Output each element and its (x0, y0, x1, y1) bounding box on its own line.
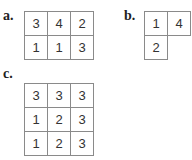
grid-cell: 1 (25, 36, 48, 60)
grid-cell: 1 (25, 132, 48, 156)
panel-b-label: b. (124, 8, 135, 24)
panel-b-grid: 1 4 2 (144, 11, 191, 60)
grid-cell: 3 (71, 84, 94, 108)
grid-cell: 3 (71, 132, 94, 156)
grid-cell: 4 (168, 12, 191, 36)
grid-cell: 2 (48, 132, 71, 156)
grid-cell: 3 (48, 84, 71, 108)
grid-cell: 1 (48, 36, 71, 60)
grid-cell: 2 (145, 36, 168, 60)
grid-cell: 3 (71, 108, 94, 132)
grid-cell: 2 (48, 108, 71, 132)
panel-c-label: c. (3, 66, 13, 82)
grid-cell: 3 (71, 36, 94, 60)
grid-cell: 1 (145, 12, 168, 36)
grid-cell: 3 (25, 12, 48, 36)
grid-cell: 2 (71, 12, 94, 36)
grid-cell: 3 (25, 84, 48, 108)
grid-cell: 1 (25, 108, 48, 132)
grid-cell: 4 (48, 12, 71, 36)
panel-a-grid: 3 4 2 1 1 3 (24, 11, 94, 60)
empty-cell (168, 36, 191, 60)
panel-c-grid: 3 3 3 1 2 3 1 2 3 (24, 83, 94, 156)
panel-a-label: a. (3, 8, 14, 24)
